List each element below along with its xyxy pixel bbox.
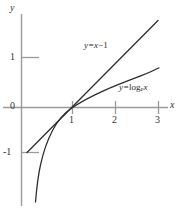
annotation-log-arg: x — [143, 82, 147, 92]
y-tick-label-0: 0 — [10, 101, 15, 111]
x-tick-label-1: 1 — [69, 115, 74, 125]
y-axis-label: y — [10, 3, 14, 13]
annotation-log-equation: y=logex — [119, 83, 147, 93]
annotation-line-prefix: y=x — [84, 40, 98, 50]
plot-canvas — [0, 0, 184, 213]
x-tick-label-2: 2 — [112, 115, 117, 125]
annotation-log-prefix: y= — [119, 82, 129, 92]
x-axis-label: x — [170, 100, 174, 110]
x-tick-label-3: 3 — [155, 115, 160, 125]
annotation-line-minus-one: −1 — [98, 40, 108, 50]
y-tick-label-neg-1: -1 — [3, 147, 11, 157]
annotation-line-equation: y=x−1 — [84, 41, 108, 50]
log-and-tangent-line-plot: y x 1 0 -1 1 2 3 y=x−1 y=logex — [0, 0, 184, 213]
y-tick-label-1: 1 — [10, 52, 15, 62]
annotation-log-func: log — [129, 82, 141, 92]
